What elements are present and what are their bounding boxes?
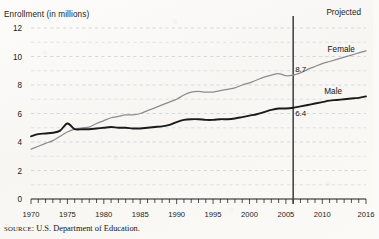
y-tick-2: 2	[2, 166, 22, 175]
y-tick-6: 6	[2, 109, 22, 118]
y-tick-0: 0	[2, 195, 22, 204]
x-tick-2000: 2000	[232, 210, 266, 219]
y-tick-4: 4	[2, 138, 22, 147]
x-tick-2016: 2016	[349, 210, 379, 219]
source-prefix: SOURCE	[4, 225, 32, 232]
x-tick-1985: 1985	[123, 210, 157, 219]
x-tick-1970: 1970	[14, 210, 48, 219]
series-label-male: Male	[324, 87, 342, 96]
x-tick-1980: 1980	[87, 210, 121, 219]
x-tick-2010: 2010	[305, 210, 339, 219]
x-tick-1990: 1990	[160, 210, 194, 219]
y-tick-12: 12	[2, 24, 22, 33]
y-tick-10: 10	[2, 52, 22, 61]
source-text: : U.S. Department of Education.	[32, 224, 140, 233]
male-value-label: 6.4	[295, 109, 306, 118]
female-value-label: 8.7	[295, 65, 306, 74]
series-label-female: Female	[328, 45, 355, 54]
source-caption: SOURCE: U.S. Department of Education.	[4, 224, 140, 233]
y-tick-8: 8	[2, 81, 22, 90]
x-tick-1975: 1975	[50, 210, 84, 219]
x-tick-1995: 1995	[196, 210, 230, 219]
x-tick-2005: 2005	[269, 210, 303, 219]
